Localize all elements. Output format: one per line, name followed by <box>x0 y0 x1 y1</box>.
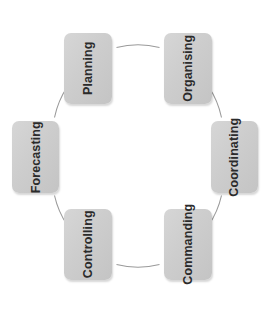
arc-planning-organising <box>117 45 160 48</box>
cycle-node-coordinating[interactable]: Coordinating <box>211 121 258 193</box>
cycle-node-forecasting[interactable]: Forecasting <box>12 121 59 193</box>
cycle-node-commanding[interactable]: Commanding <box>164 209 212 280</box>
cycle-node-label: Organising <box>182 35 195 102</box>
cycle-node-label: Controlling <box>82 211 95 279</box>
cycle-diagram: Planning Organising Coordinating Command… <box>0 0 268 311</box>
cycle-node-label: Planning <box>82 42 95 96</box>
cycle-node-label: Forecasting <box>29 121 42 193</box>
cycle-node-label: Coordinating <box>228 118 241 197</box>
cycle-node-label: Commanding <box>182 204 195 285</box>
cycle-node-planning[interactable]: Planning <box>64 33 112 104</box>
cycle-node-organising[interactable]: Organising <box>164 33 212 104</box>
arc-commanding-controlling <box>117 265 160 268</box>
cycle-node-controlling[interactable]: Controlling <box>64 209 112 280</box>
